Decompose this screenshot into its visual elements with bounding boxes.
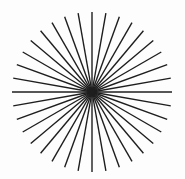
- radial-star-pattern: [0, 0, 185, 179]
- center-dot: [89, 89, 95, 95]
- canvas: [0, 0, 185, 179]
